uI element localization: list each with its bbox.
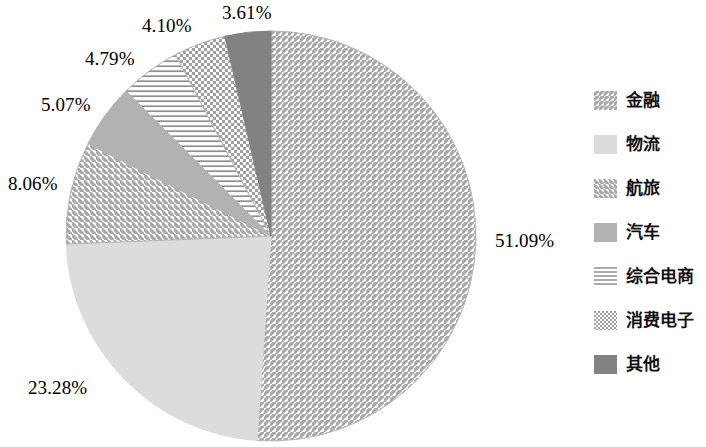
legend-swatch [594,91,617,110]
legend-swatch [594,179,617,198]
slice-value-label-ecommerce: 4.79% [85,48,135,70]
legend-item-label: 物流 [626,136,660,153]
legend-item[interactable]: 汽车 [594,210,706,254]
legend-swatch [594,223,617,242]
legend-swatch [594,135,617,154]
slice-value-label-finance: 51.09% [495,230,554,252]
pie-slice[interactable] [66,236,271,441]
slice-value-label-automotive: 5.07% [41,94,91,116]
legend-item[interactable]: 消费电子 [594,298,706,342]
chart-legend: 金融物流航旅汽车综合电商消费电子其他 [594,78,706,386]
legend-item[interactable]: 其他 [594,342,706,386]
legend-item[interactable]: 物流 [594,122,706,166]
legend-swatch [594,355,617,374]
legend-swatch [594,311,617,330]
slice-value-label-logistics: 23.28% [28,377,87,399]
legend-item-label: 航旅 [626,180,660,197]
pie-slice[interactable] [257,31,476,441]
legend-item-label: 综合电商 [626,268,694,285]
legend-item-label: 汽车 [626,224,660,241]
legend-swatch [594,267,617,286]
legend-item-label: 消费电子 [626,312,694,329]
slice-value-label-electronics: 4.10% [142,15,192,37]
legend-item[interactable]: 综合电商 [594,254,706,298]
legend-item[interactable]: 航旅 [594,166,706,210]
pie-chart-figure: 51.09% 23.28% 8.06% 5.07% 4.79% 4.10% 3.… [0,0,706,447]
legend-item[interactable]: 金融 [594,78,706,122]
slice-value-label-travel: 8.06% [8,173,58,195]
legend-item-label: 金融 [626,92,660,109]
legend-item-label: 其他 [626,356,660,373]
slice-value-label-other: 3.61% [222,2,272,24]
pie-slice-group [66,31,476,441]
